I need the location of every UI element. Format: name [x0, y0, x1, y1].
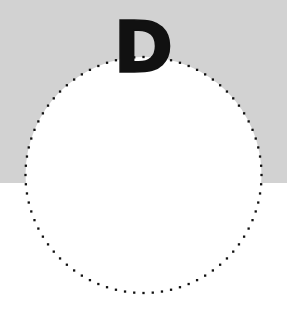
circle-dot [73, 269, 75, 271]
letter-d-label: D [0, 11, 287, 83]
circle-dot [188, 283, 190, 285]
circle-dot [257, 146, 259, 148]
circle-dot [25, 165, 27, 167]
circle-dot [124, 290, 126, 292]
circle-dot [161, 290, 163, 292]
circle-dot [179, 286, 181, 288]
circle-dot [106, 286, 108, 288]
circle-dot [251, 129, 253, 131]
circle-dot [232, 250, 234, 252]
circle-dot [251, 219, 253, 221]
circle-dot [243, 236, 245, 238]
circle-dot [226, 90, 228, 92]
circle-dot [219, 264, 221, 266]
circle-dot [28, 146, 30, 148]
circle-dot [53, 250, 55, 252]
circle-dot [255, 137, 257, 139]
circle-dot [53, 97, 55, 99]
circle-dot [97, 283, 99, 285]
circle-dot [133, 291, 135, 293]
circle-dot [66, 264, 68, 266]
circle-dot [238, 104, 240, 106]
circle-dot [89, 279, 91, 281]
circle-dot [33, 129, 35, 131]
circle-dot [152, 291, 154, 293]
circle-dot [26, 155, 28, 157]
circle-dot [33, 219, 35, 221]
circle-dot [37, 227, 39, 229]
circle-dot [243, 112, 245, 114]
circle-dot [257, 201, 259, 203]
circle-dot [260, 183, 262, 185]
circle-dot [204, 274, 206, 276]
circle-dot [30, 210, 32, 212]
circle-dot [212, 269, 214, 271]
circle-dot [170, 289, 172, 291]
circle-dot [42, 236, 44, 238]
circle-dot [59, 90, 61, 92]
circle-dot [259, 155, 261, 157]
circle-dot [59, 257, 61, 259]
circle-dot [247, 120, 249, 122]
circle-dot [25, 183, 27, 185]
circle-dot [247, 227, 249, 229]
circle-dot [142, 292, 144, 294]
circle-dot [260, 165, 262, 167]
circle-dot [115, 289, 117, 291]
circle-dot [232, 97, 234, 99]
circle-dot [238, 243, 240, 245]
circle-dot [259, 192, 261, 194]
circle-dot [260, 174, 262, 176]
circle-dot [226, 257, 228, 259]
figure-canvas: D [0, 0, 287, 315]
circle-dot [24, 174, 26, 176]
circle-dot [255, 210, 257, 212]
circle-dot [196, 279, 198, 281]
circle-dot [26, 192, 28, 194]
circle-dot [47, 104, 49, 106]
circle-dot [81, 274, 83, 276]
circle-dot [28, 201, 30, 203]
circle-dot [37, 120, 39, 122]
circle-dot [47, 243, 49, 245]
circle-dot [30, 137, 32, 139]
circle-dot [42, 112, 44, 114]
circle-dot [66, 84, 68, 86]
circle-dot [219, 84, 221, 86]
